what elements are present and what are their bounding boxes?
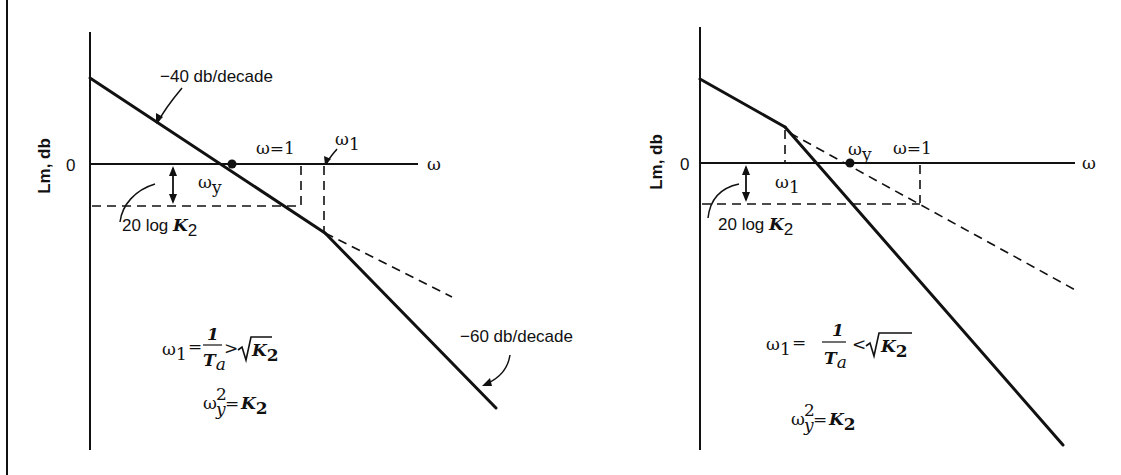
right-asymptote-60 — [785, 127, 1063, 445]
left-slope-60-label: −60 db/decade — [460, 327, 573, 346]
left-slope-60-arrowhead — [482, 378, 492, 386]
svg-text:ω: ω — [203, 393, 217, 413]
right-condition-formula: ω1 = 1 Ta < K2 — [766, 320, 912, 372]
right-x-axis-label: ω — [1082, 153, 1096, 173]
right-relation-formula: ω 2 y = K2 — [791, 400, 856, 435]
right-omega-y-point — [846, 159, 855, 168]
right-zero-tick: 0 — [680, 155, 689, 174]
svg-text:=: = — [813, 409, 827, 429]
left-bode-plot: Lm, db 0 ω 20 log K2 ωy — [35, 32, 573, 450]
right-y-axis-label: Lm, db — [647, 134, 666, 190]
right-asymptote-40 — [700, 79, 785, 127]
left-omega-y-point — [228, 160, 237, 169]
svg-text:Ta: Ta — [824, 348, 847, 372]
svg-text:=: = — [188, 336, 202, 356]
left-condition-formula: ω1 = 1 Ta > K2 — [162, 324, 279, 374]
svg-text:K2: K2 — [251, 340, 279, 365]
right-omega-eq-1-label: ω=1 — [893, 138, 932, 158]
svg-text:=: = — [792, 332, 806, 352]
svg-text:ω: ω — [791, 409, 805, 429]
left-omega-y-label: ωy — [198, 172, 222, 197]
left-x-axis-label: ω — [427, 154, 441, 174]
right-gain-leader — [708, 184, 739, 218]
svg-text:<: < — [852, 334, 866, 354]
right-gain-label: 20 log K2 — [718, 214, 793, 239]
left-gain-label: 20 log K2 — [122, 215, 197, 240]
left-asymptote-60 — [325, 233, 496, 408]
right-omega-1-label: ω1 — [775, 172, 800, 197]
svg-text:ω1: ω1 — [162, 339, 187, 364]
right-bode-plot: Lm, db 0 ω 20 log K2 ω1 — [647, 27, 1096, 450]
right-dashed-extension — [790, 133, 1079, 292]
left-relation-formula: ω 2 y = K2 — [203, 384, 268, 419]
svg-text:Ta: Ta — [203, 350, 226, 374]
right-gain-arrow — [742, 165, 750, 202]
svg-text:K2: K2 — [880, 336, 908, 361]
svg-text:ω1: ω1 — [766, 334, 791, 359]
left-slope-40-label: −40 db/decade — [160, 67, 273, 86]
left-omega-1-label: ω1 — [335, 129, 360, 154]
svg-text:K2: K2 — [240, 393, 268, 418]
left-y-axis-label: Lm, db — [35, 138, 54, 194]
svg-text:1: 1 — [207, 324, 219, 344]
bode-diagram-figure: Lm, db 0 ω 20 log K2 ωy — [0, 0, 1121, 475]
svg-text:>: > — [224, 338, 238, 358]
left-zero-tick: 0 — [66, 156, 75, 175]
svg-text:1: 1 — [832, 320, 844, 340]
left-dashed-extension — [325, 233, 452, 297]
svg-text:=: = — [225, 393, 239, 413]
left-gain-arrow — [169, 166, 177, 204]
svg-text:K2: K2 — [828, 409, 856, 434]
left-omega-eq-1-label: ω=1 — [256, 138, 295, 158]
